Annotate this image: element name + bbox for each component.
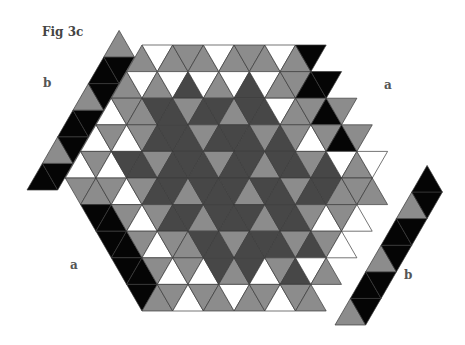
label-b-upper: b <box>43 76 51 90</box>
triangle-tiling-figure <box>0 0 465 345</box>
label-a-left: a <box>70 258 78 272</box>
figure-title: Fig 3c <box>42 25 83 39</box>
strip-triangle-up <box>104 30 135 57</box>
label-a-right: a <box>384 78 392 92</box>
strip-triangle-up <box>412 165 443 192</box>
label-b-lower: b <box>404 268 412 282</box>
